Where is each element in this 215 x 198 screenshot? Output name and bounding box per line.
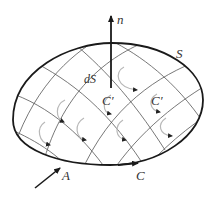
cell-contour-label-2: C′ [151,93,163,108]
point-a-arrow [35,168,60,188]
surface-label: S [176,46,183,61]
point-label: A [61,168,70,183]
surface-element-label: dS [84,72,96,86]
cell-loop-2 [39,122,50,145]
boundary-direction-arrow [118,163,138,165]
stokes-surface-diagram: n S dS C′ C′ A C [0,0,215,198]
cell-contour-label-1: C′ [102,93,114,108]
cell-loop-8 [160,118,172,136]
cell-loop-5 [118,67,137,90]
boundary-label: C [136,168,145,183]
normal-label: n [117,12,124,27]
